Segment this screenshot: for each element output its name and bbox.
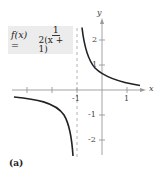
x-tick-label-1: 1 (124, 94, 129, 103)
y-tick-label-1: 1 (92, 60, 97, 69)
curve-right-branch (82, 28, 140, 86)
y-tick-label-2: 2 (92, 35, 97, 44)
function-label: f(x) = 1 2(x + 1) (8, 26, 73, 54)
y-tick-label-neg2: -2 (88, 135, 96, 144)
function-name: f(x) = (11, 29, 37, 51)
x-axis-label: x (149, 84, 154, 93)
y-tick-label-neg1: -1 (88, 110, 96, 119)
fraction-denominator: 2(x + 1) (39, 36, 73, 55)
y-axis-label: y (97, 8, 102, 17)
function-fraction: 1 2(x + 1) (39, 25, 73, 55)
figure-sub-label: (a) (9, 158, 23, 168)
x-axis-arrow-icon (140, 88, 146, 92)
x-tick-label-neg1: -1 (72, 94, 80, 103)
function-graph-figure: f(x) = 1 2(x + 1) y x -1 1 2 1 -1 -2 (a) (0, 0, 168, 177)
y-axis-arrow-icon (100, 18, 104, 24)
curve-left-branch (14, 97, 73, 156)
